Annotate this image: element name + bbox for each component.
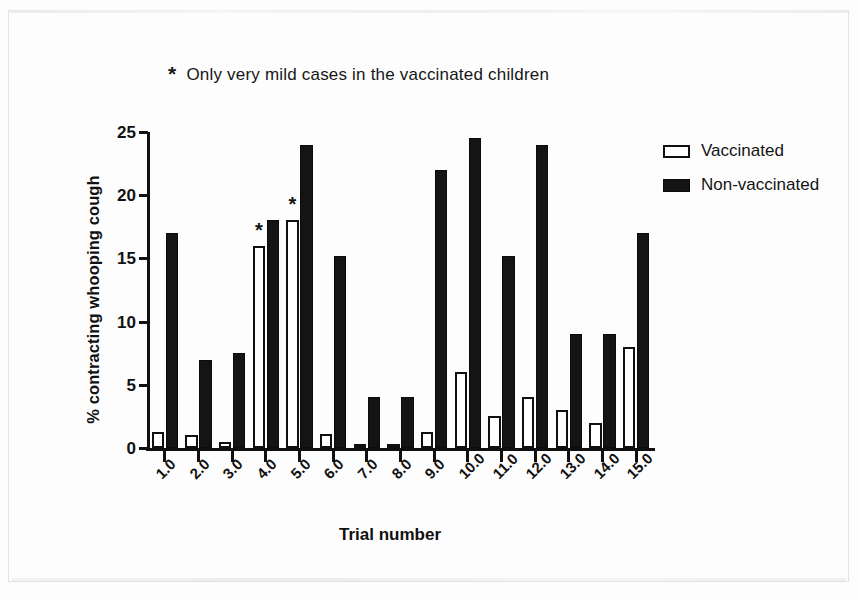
bar-vaccinated — [185, 435, 198, 448]
bar-vaccinated — [421, 432, 434, 448]
bar-vaccinated — [589, 423, 602, 448]
bar-non-vaccinated — [334, 256, 347, 448]
bar-non-vaccinated — [570, 334, 583, 448]
bar-vaccinated — [623, 347, 636, 448]
x-axis-tick-label: 2.0 — [186, 455, 213, 482]
bar-vaccinated — [320, 434, 333, 448]
plot-area: 0510152025 1.02.03.04.05.06.07.08.09.010… — [148, 132, 653, 448]
bar-vaccinated — [556, 410, 569, 448]
chart-annotation: *Only very mild cases in the vaccinated … — [168, 62, 549, 86]
bar-non-vaccinated — [368, 397, 381, 448]
y-axis-tick-label: 0 — [127, 440, 136, 457]
scan-artifact-top — [10, 10, 848, 13]
x-axis-tick-label: 14.0 — [590, 449, 623, 482]
x-axis-tick-label: 10.0 — [455, 449, 488, 482]
x-axis-tick-label: 8.0 — [388, 455, 415, 482]
annotation-text: Only very mild cases in the vaccinated c… — [186, 65, 549, 84]
legend-item-vaccinated: Vaccinated — [663, 134, 819, 168]
bar-vaccinated — [387, 444, 400, 448]
bar-vaccinated — [488, 416, 501, 448]
y-axis-tick-label: 5 — [127, 376, 136, 393]
bar-non-vaccinated — [502, 256, 515, 448]
bar-non-vaccinated — [637, 233, 650, 448]
y-axis-tick-label: 15 — [117, 250, 136, 267]
legend-item-non-vaccinated: Non-vaccinated — [663, 168, 819, 202]
y-axis-tick — [139, 131, 148, 134]
y-axis-tick — [139, 447, 148, 450]
y-axis-tick-label: 10 — [117, 313, 136, 330]
bar-vaccinated — [152, 432, 165, 448]
bar-vaccinated — [219, 442, 232, 448]
legend-label-vaccinated: Vaccinated — [701, 141, 784, 161]
bar-non-vaccinated — [300, 145, 313, 448]
y-axis-tick-label: 20 — [117, 187, 136, 204]
bar-non-vaccinated — [536, 145, 549, 448]
bar-non-vaccinated — [199, 360, 212, 448]
scan-artifact-bottom — [12, 578, 846, 581]
y-axis-tick — [139, 257, 148, 260]
bar-non-vaccinated — [267, 220, 280, 448]
bar-vaccinated — [253, 246, 266, 448]
legend-swatch-vaccinated-icon — [663, 145, 690, 158]
x-axis-tick-label: 6.0 — [320, 455, 347, 482]
x-axis-tick-label: 5.0 — [287, 455, 314, 482]
x-axis-tick-label: 9.0 — [421, 455, 448, 482]
x-axis-tick-label: 4.0 — [253, 455, 280, 482]
chart-legend: Vaccinated Non-vaccinated — [663, 134, 819, 202]
y-axis-tick — [139, 321, 148, 324]
figure-page: *Only very mild cases in the vaccinated … — [0, 0, 859, 600]
y-axis-tick-label: 25 — [117, 124, 136, 141]
bar-star-annotation: * — [255, 220, 263, 240]
x-axis-tick-label: 1.0 — [152, 455, 179, 482]
x-axis-tick-label: 3.0 — [219, 455, 246, 482]
y-axis-title: % contracting whooping cough — [84, 135, 103, 465]
x-axis-tick-label: 7.0 — [354, 455, 381, 482]
y-axis-tick — [139, 194, 148, 197]
bar-vaccinated — [455, 372, 468, 448]
bar-non-vaccinated — [469, 138, 482, 448]
bar-vaccinated — [286, 220, 299, 448]
annotation-star-icon: * — [168, 62, 176, 85]
bar-non-vaccinated — [435, 170, 448, 448]
bar-vaccinated — [354, 444, 367, 448]
x-axis-tick-label: 12.0 — [522, 449, 555, 482]
x-axis-tick-label: 11.0 — [489, 450, 521, 482]
bar-non-vaccinated — [401, 397, 414, 448]
x-axis-title: Trial number — [0, 525, 780, 545]
bar-non-vaccinated — [603, 334, 616, 448]
legend-swatch-non-vaccinated-icon — [663, 179, 690, 192]
bar-non-vaccinated — [233, 353, 246, 448]
x-axis-tick-label: 15.0 — [623, 449, 656, 482]
bar-star-annotation: * — [289, 194, 297, 214]
y-axis-tick — [139, 384, 148, 387]
legend-label-non-vaccinated: Non-vaccinated — [701, 175, 819, 195]
x-axis-tick-label: 13.0 — [556, 449, 589, 482]
y-axis-line — [147, 132, 150, 449]
bar-non-vaccinated — [166, 233, 179, 448]
bar-vaccinated — [522, 397, 535, 448]
